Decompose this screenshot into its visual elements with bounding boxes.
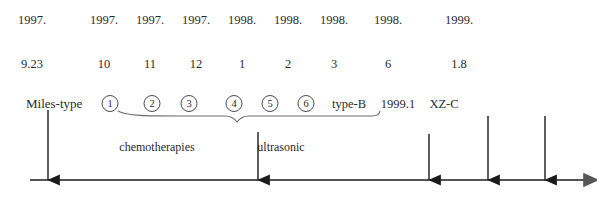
type-b-label: type-B xyxy=(332,94,366,114)
date-label-row: 9.23 10 11 12 1 2 3 6 1.8 xyxy=(0,54,597,74)
ultrasonic-label: ultrasonic xyxy=(257,137,304,157)
circled-number-6: 6 xyxy=(298,95,315,112)
date-label: 6 xyxy=(385,54,391,74)
timeline-diagram: 1997. 1997. 1997. 1997. 1998. 1998. 1998… xyxy=(0,0,597,198)
year-label: 1998. xyxy=(320,10,348,30)
note-label-row: chemotherapies ultrasonic xyxy=(0,137,597,157)
date-label: 2 xyxy=(285,54,291,74)
year-label: 1997. xyxy=(182,10,210,30)
circled-number-3: 3 xyxy=(181,95,198,112)
date-label: 1.8 xyxy=(451,54,467,74)
circled-number-5: 5 xyxy=(262,95,279,112)
year-label: 1998. xyxy=(274,10,302,30)
date-label: 1 xyxy=(239,54,245,74)
date-label: 9.23 xyxy=(21,54,43,74)
year-label: 1997. xyxy=(136,10,164,30)
date-label: 11 xyxy=(144,54,156,74)
year-label: 1997. xyxy=(90,10,118,30)
date-label: 3 xyxy=(331,54,337,74)
event-label-row: Miles-type 1 2 3 4 5 6 type-B 1999.1 XZ-… xyxy=(0,94,597,114)
circled-number-2: 2 xyxy=(144,95,161,112)
date-label: 12 xyxy=(190,54,203,74)
date-label: 10 xyxy=(98,54,111,74)
circled-number-1: 1 xyxy=(102,95,119,112)
xz-c-label: XZ-C xyxy=(429,94,458,114)
year-label-row: 1997. 1997. 1997. 1997. 1998. 1998. 1998… xyxy=(0,10,597,30)
chemotherapies-label: chemotherapies xyxy=(119,137,194,157)
circled-number-4: 4 xyxy=(226,95,243,112)
year-label: 1998. xyxy=(228,10,256,30)
year-label: 1999. xyxy=(445,10,473,30)
miles-type-label: Miles-type xyxy=(26,94,82,114)
year-label: 1998. xyxy=(374,10,402,30)
year-label: 1997. xyxy=(18,10,46,30)
date-1999-label: 1999.1 xyxy=(381,94,415,114)
